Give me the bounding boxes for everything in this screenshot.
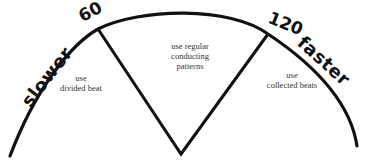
tempo-arc-diagram: 60 120 slower faster use divided beat us… bbox=[0, 0, 370, 168]
region-label-divided-beat: use divided beat bbox=[48, 74, 114, 94]
region-label-collected-beats: use collected beats bbox=[252, 71, 332, 91]
region-label-regular-patterns: use regular conducting patterns bbox=[150, 42, 230, 71]
